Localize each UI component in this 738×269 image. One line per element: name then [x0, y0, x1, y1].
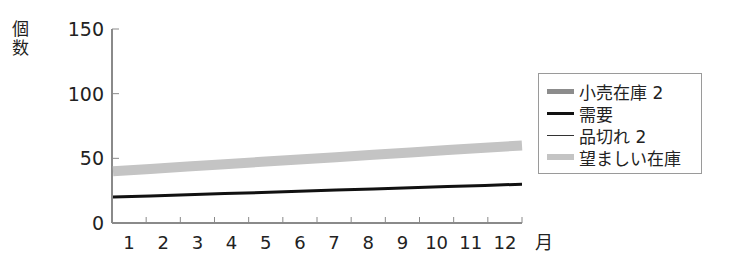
chart-legend: 小売在庫 2 需要 品切れ 2 望ましい在庫 [538, 73, 702, 174]
x-tick-label: 10 [425, 232, 448, 253]
x-tick-label: 8 [363, 232, 374, 253]
series-line [113, 145, 522, 171]
x-axis-unit-label: 月 [535, 232, 553, 253]
x-tick-label: 2 [158, 232, 169, 253]
y-axis-label-char: 個 [10, 20, 30, 39]
x-tick-label: 6 [294, 232, 305, 253]
x-tick-label: 11 [459, 232, 482, 253]
x-tick-label: 5 [260, 232, 271, 253]
x-tick-label: 7 [328, 232, 339, 253]
x-tick-label: 3 [192, 232, 203, 253]
legend-swatch-icon [547, 89, 574, 94]
legend-item-stockout: 品切れ 2 [547, 124, 701, 146]
x-tick-label: 9 [397, 232, 408, 253]
y-axis-label-char: 数 [10, 39, 30, 58]
series-line [113, 184, 522, 197]
y-tick-label: 150 [68, 18, 104, 40]
legend-swatch-icon [547, 154, 574, 160]
y-tick-label: 100 [68, 83, 104, 105]
y-axis-label: 個 数 [10, 20, 30, 58]
legend-swatch-icon [547, 135, 574, 136]
legend-item-demand: 需要 [547, 102, 701, 124]
x-tick-label: 12 [493, 232, 516, 253]
plot-area: 050100150123456789101112月 [68, 18, 553, 253]
legend-item-desired-stock: 望ましい在庫 [547, 146, 701, 168]
x-tick-label: 1 [123, 232, 134, 253]
x-tick-label: 4 [226, 232, 237, 253]
legend-label: 望ましい在庫 [579, 145, 681, 170]
y-tick-label: 50 [80, 147, 104, 169]
legend-item-retail-stock: 小売在庫 2 [547, 80, 701, 102]
y-tick-label: 0 [92, 212, 104, 234]
legend-swatch-icon [547, 112, 574, 115]
